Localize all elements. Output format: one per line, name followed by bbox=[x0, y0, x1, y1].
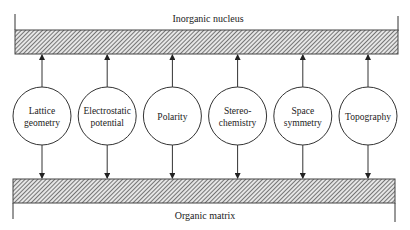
inorganic-nucleus-bar bbox=[15, 30, 398, 54]
node-label: Polarity bbox=[157, 112, 187, 122]
organic-matrix-label: Organic matrix bbox=[175, 210, 236, 221]
diagram-canvas: Inorganic nucleus Organic matrix Lattice… bbox=[0, 0, 410, 230]
node-label: Space bbox=[291, 106, 314, 116]
node-label: Topography bbox=[345, 112, 391, 122]
organic-matrix-bar bbox=[13, 179, 395, 203]
node-stereo-chemistry: Stereo-chemistry bbox=[209, 55, 267, 178]
node-topography: Topography bbox=[339, 55, 397, 178]
node-label: Stereo- bbox=[224, 106, 251, 116]
node-label: chemistry bbox=[219, 118, 257, 128]
inorganic-nucleus: Inorganic nucleus bbox=[15, 13, 398, 54]
node-lattice-geometry: Latticegeometry bbox=[13, 55, 71, 178]
node-label: symmetry bbox=[284, 118, 322, 128]
property-nodes: LatticegeometryElectrostaticpotentialPol… bbox=[13, 55, 397, 178]
node-label: geometry bbox=[24, 118, 60, 128]
node-label: potential bbox=[91, 118, 125, 128]
node-polarity: Polarity bbox=[143, 55, 201, 178]
node-label: Electrostatic bbox=[83, 106, 130, 116]
node-circle bbox=[13, 87, 71, 145]
inorganic-nucleus-label: Inorganic nucleus bbox=[172, 13, 243, 24]
node-space-symmetry: Spacesymmetry bbox=[274, 55, 332, 178]
node-electrostatic-potential: Electrostaticpotential bbox=[78, 55, 136, 178]
node-label: Lattice bbox=[29, 106, 55, 116]
organic-matrix: Organic matrix bbox=[13, 179, 395, 222]
node-circle bbox=[274, 87, 332, 145]
node-circle bbox=[78, 87, 136, 145]
node-circle bbox=[209, 87, 267, 145]
